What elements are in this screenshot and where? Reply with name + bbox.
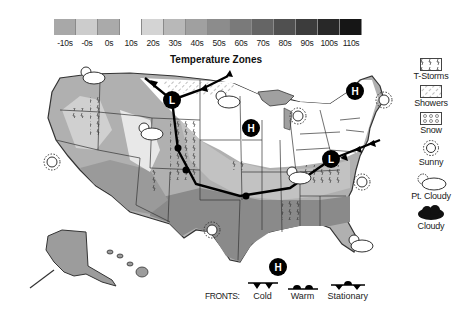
partly-cloudy-icon (81, 67, 105, 84)
svg-text:H: H (351, 86, 358, 97)
legend-item-t-storms: T-Storms (400, 58, 462, 82)
front-label: Cold (253, 291, 272, 301)
us-weather-map: L H H L H (0, 0, 462, 313)
stationary-front-icon (331, 279, 365, 291)
cloudy-icon (416, 205, 446, 221)
svg-text:H: H (247, 123, 254, 134)
legend-item-snow: Snow (400, 112, 462, 136)
legend-label: Pt. Cloudy (411, 191, 451, 202)
legend-item-sunny: Sunny (400, 139, 462, 168)
pressure-high-midwest: H (242, 119, 260, 137)
sun-icon (44, 154, 60, 170)
weather-legend: T-Storms Showers Snow Sunny Pt. Cloudy C… (400, 58, 462, 235)
front-item-stationary: Stationary (328, 279, 369, 301)
hawaii (107, 250, 148, 277)
t-storms-icon (420, 58, 442, 71)
cold-front-icon (248, 281, 278, 291)
partly-cloudy-icon (414, 171, 448, 191)
sunny-icon (421, 139, 441, 157)
legend-label: Sunny (419, 157, 444, 168)
alaska-tail (30, 270, 54, 288)
svg-text:L: L (169, 95, 175, 106)
partly-cloudy-icon (349, 235, 373, 252)
fronts-title: FRONTS: (205, 291, 240, 301)
warm-front-icon (288, 281, 318, 291)
front-item-cold: Cold (248, 281, 278, 301)
snow-icon (420, 112, 442, 125)
fronts-legend: FRONTS: Cold Warm Stationary (205, 279, 378, 301)
sun-icon (354, 174, 370, 190)
legend-label: Showers (414, 98, 448, 109)
svg-text:L: L (328, 154, 334, 165)
front-label: Stationary (328, 291, 369, 301)
legend-label: Snow (420, 125, 442, 136)
pressure-high-gulf: H (269, 258, 287, 276)
showers-icon (420, 85, 442, 98)
pressure-high-newengland: H (346, 82, 364, 100)
legend-item-pt-cloudy: Pt. Cloudy (400, 171, 462, 202)
pressure-low-atlantic: L (322, 150, 340, 168)
pressure-low-plains: L (163, 91, 181, 109)
legend-label: Cloudy (418, 221, 445, 232)
alaska (46, 230, 116, 286)
legend-item-cloudy: Cloudy (400, 205, 462, 232)
svg-text:H: H (274, 262, 281, 273)
legend-item-showers: Showers (400, 85, 462, 109)
legend-label: T-Storms (414, 71, 449, 82)
front-item-warm: Warm (288, 281, 318, 301)
front-label: Warm (291, 291, 315, 301)
